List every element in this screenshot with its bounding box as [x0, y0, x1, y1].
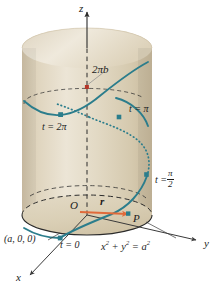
eq-plus-y: + y	[112, 241, 126, 252]
z-axis-label: z	[79, 3, 83, 14]
t-half-pi-fraction: π2	[167, 169, 174, 190]
marker-pitch-point	[85, 85, 89, 89]
vector-r-label: r	[100, 196, 104, 207]
marker-point-p	[126, 211, 130, 215]
cylinder-equation-label: x2 + y2 = a2	[101, 240, 150, 252]
eq-sup-1: 2	[106, 239, 109, 246]
t-pi-label: t = π	[129, 104, 149, 114]
origin-label: O	[70, 200, 78, 211]
base-point-label: (a, 0, 0)	[4, 234, 36, 244]
marker-t-pi	[117, 115, 122, 120]
helix-cylinder-figure: z y x 2πb O r P t = 2π t = π t =π2 t = 0…	[0, 0, 224, 293]
pitch-label: 2πb	[92, 64, 109, 75]
marker-t-two-pi	[58, 112, 63, 117]
point-p-label: P	[133, 213, 140, 224]
t-half-pi-prefix: t =	[155, 174, 167, 185]
t-half-pi-denominator: 2	[167, 180, 174, 189]
t-two-pi-label: t = 2π	[42, 122, 67, 132]
y-axis-label: y	[204, 238, 209, 249]
t-half-pi-label: t =π2	[155, 170, 174, 191]
t-half-pi-numerator: π	[167, 169, 174, 178]
t-zero-label: t = 0	[60, 240, 80, 250]
marker-t-half-pi	[144, 172, 149, 177]
eq-sup-3: 2	[147, 239, 150, 246]
eq-sup-2: 2	[126, 239, 129, 246]
x-axis-label: x	[16, 272, 21, 283]
eq-equals-a: = a	[132, 241, 147, 252]
